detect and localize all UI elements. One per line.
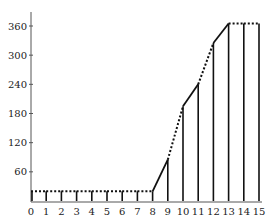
line-segment-solid — [183, 84, 198, 106]
x-tick-label: 7 — [134, 206, 140, 217]
y-ticks: 60120180240300360 — [8, 21, 33, 178]
step-line-chart: 60120180240300360 0123456789101112131415 — [0, 0, 274, 224]
x-tick-label: 3 — [73, 206, 79, 217]
x-tick-label: 12 — [207, 206, 220, 217]
y-tick-label: 240 — [8, 79, 27, 90]
line-segment-dotted — [168, 106, 183, 159]
x-tick-label: 8 — [149, 206, 155, 217]
x-tick-label: 6 — [119, 206, 125, 217]
drop-lines — [32, 24, 259, 201]
x-tick-label: 1 — [43, 206, 49, 217]
y-tick-label: 300 — [8, 50, 27, 61]
x-tick-label: 14 — [237, 206, 250, 217]
x-tick-label: 15 — [253, 206, 266, 217]
x-tick-label: 11 — [192, 206, 205, 217]
y-tick-label: 180 — [8, 108, 27, 119]
x-ticks: 0123456789101112131415 — [28, 206, 266, 217]
line-segment-solid — [213, 24, 228, 43]
x-tick-label: 5 — [104, 206, 110, 217]
x-tick-label: 4 — [89, 206, 95, 217]
x-tick-label: 2 — [58, 206, 64, 217]
x-tick-label: 10 — [177, 206, 190, 217]
y-tick-label: 360 — [8, 21, 27, 32]
x-tick-label: 9 — [165, 206, 171, 217]
y-tick-label: 120 — [8, 137, 27, 148]
x-tick-label: 13 — [222, 206, 235, 217]
axes — [31, 12, 262, 202]
line-segment-dotted — [198, 43, 213, 84]
line-segment-solid — [153, 160, 168, 192]
data-series — [31, 24, 259, 192]
x-tick-label: 0 — [28, 206, 34, 217]
y-tick-label: 60 — [14, 166, 27, 177]
